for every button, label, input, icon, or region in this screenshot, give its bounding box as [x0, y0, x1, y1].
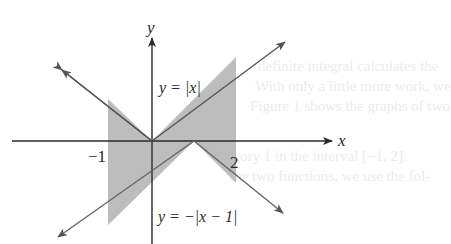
curve-abs-x-left — [62, 70, 152, 141]
curve-label-abs-x: y = |x| — [157, 79, 201, 97]
curve-neg-abs-right — [194, 141, 283, 213]
x-axis-label: x — [337, 131, 346, 150]
y-axis-label: y — [145, 18, 155, 37]
tick-label-2: 2 — [230, 153, 239, 172]
tick-label-neg1: −1 — [88, 147, 106, 166]
curve-label-neg-abs: y = −|x − 1| — [156, 208, 237, 226]
